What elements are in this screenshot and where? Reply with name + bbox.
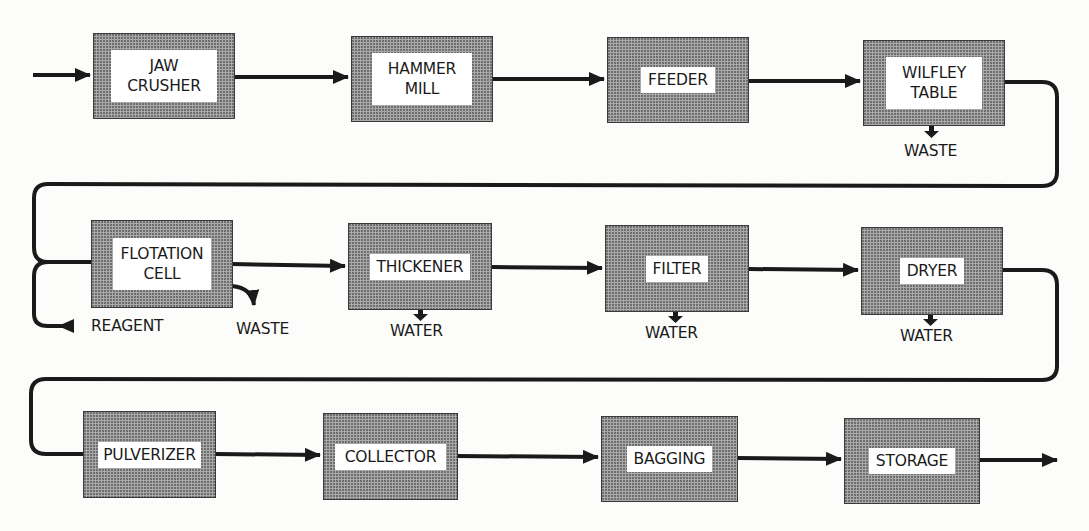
flotation-waste-label: WASTE [236,320,289,338]
label-line: BAGGING [634,449,706,469]
step-wilfley-table: WILFLEY TABLE [863,40,1005,126]
wilfley-waste-arrow [924,126,939,138]
step-jaw-crusher: JAW CRUSHER [93,33,235,119]
label-line: CELL [121,264,204,284]
reagent-label: REAGENT [91,317,163,335]
reagent-arrowhead [58,319,74,333]
arrow-collector-to-bagging [457,456,598,457]
step-collector: COLLECTOR [323,413,458,500]
thickener-water-label: WATER [390,322,443,340]
step-label: FEEDER [641,67,715,93]
step-label: JAW CRUSHER [111,50,217,102]
step-label: THICKENER [370,254,471,280]
filter-water-arrow [668,311,683,323]
step-label: DRYER [900,258,965,284]
step-storage: STORAGE [844,418,980,504]
step-label: PULVERIZER [98,442,201,468]
label-line: WILFLEY [902,63,966,83]
arrow-flotation-to-thickener [232,264,345,266]
label-line: COLLECTOR [345,447,437,467]
step-label: BAGGING [627,446,713,472]
step-label: FILTER [646,256,709,282]
filter-water-label: WATER [645,324,698,342]
label-line: THICKENER [377,257,464,277]
step-pulverizer: PULVERIZER [83,411,216,498]
arrow-bagging-to-storage [737,458,841,459]
label-line: FLOTATION [121,244,204,264]
arrow-pulverizer-to-collector [215,454,320,455]
step-bagging: BAGGING [601,416,738,502]
label-line: TABLE [902,83,966,103]
step-filter: FILTER [605,225,749,312]
step-label: FLOTATION CELL [113,238,212,290]
label-line: FEEDER [648,70,708,90]
thickener-water-arrow [413,309,428,321]
label-line: CRUSHER [127,76,201,96]
step-label: COLLECTOR [335,444,447,470]
step-hammer-mill: HAMMER MILL [351,36,493,122]
step-dryer: DRYER [861,227,1003,315]
step-thickener: THICKENER [348,223,492,310]
dryer-water-arrow [923,314,938,326]
label-line: FILTER [653,259,702,279]
reagent-branch [34,262,70,326]
label-line: DRYER [907,261,958,281]
arrow-filter-to-dryer [749,269,858,270]
step-feeder: FEEDER [607,37,749,123]
label-line: PULVERIZER [103,445,196,465]
arrow-thickener-to-filter [492,267,602,268]
label-line: HAMMER [388,59,456,79]
dryer-water-label: WATER [900,327,953,345]
step-label: WILFLEY TABLE [886,57,982,109]
label-line: STORAGE [876,451,948,471]
wilfley-waste-label: WASTE [904,142,957,160]
label-line: MILL [388,79,456,99]
label-line: JAW [127,56,201,76]
step-flotation-cell: FLOTATION CELL [91,220,233,308]
flotation-waste-arrow [232,286,254,305]
step-label: STORAGE [869,448,955,474]
step-label: HAMMER MILL [372,53,472,105]
